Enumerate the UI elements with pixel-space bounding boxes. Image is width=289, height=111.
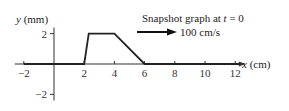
series-line-pulse <box>24 34 240 64</box>
series <box>24 34 240 64</box>
x-tick-label: 4 <box>112 67 118 79</box>
x-axis-label: x (cm) <box>241 58 271 71</box>
y-axis-label: y (mm) <box>15 13 48 26</box>
x-tick-label: 2 <box>81 67 87 79</box>
y-tick-label: 2 <box>42 28 48 40</box>
velocity-arrow-icon <box>137 29 177 36</box>
x-tick-label: 6 <box>142 67 148 79</box>
x-tick-label: 8 <box>172 67 178 79</box>
y-tick-label: −2 <box>35 88 47 100</box>
chart: −2246810122−2 y (mm) x (cm) Snapshot gra… <box>0 0 289 111</box>
x-tick-label: 10 <box>200 67 212 79</box>
x-tick-label: −2 <box>18 67 30 79</box>
velocity-label: 100 cm/s <box>180 26 220 38</box>
chart-title: Snapshot graph at t = 0 <box>142 12 244 24</box>
x-tick-label: 12 <box>230 67 241 79</box>
